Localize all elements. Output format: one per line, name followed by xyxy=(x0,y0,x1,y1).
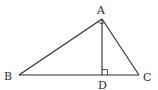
label-b: B xyxy=(4,70,12,83)
triangle-diagram: A B C D xyxy=(0,0,158,90)
label-d: D xyxy=(98,79,107,90)
label-a: A xyxy=(96,4,106,17)
label-c: C xyxy=(143,71,151,84)
right-angle-marker-icon xyxy=(102,70,108,76)
segment-ab xyxy=(19,19,102,75)
segment-ac xyxy=(102,19,139,75)
